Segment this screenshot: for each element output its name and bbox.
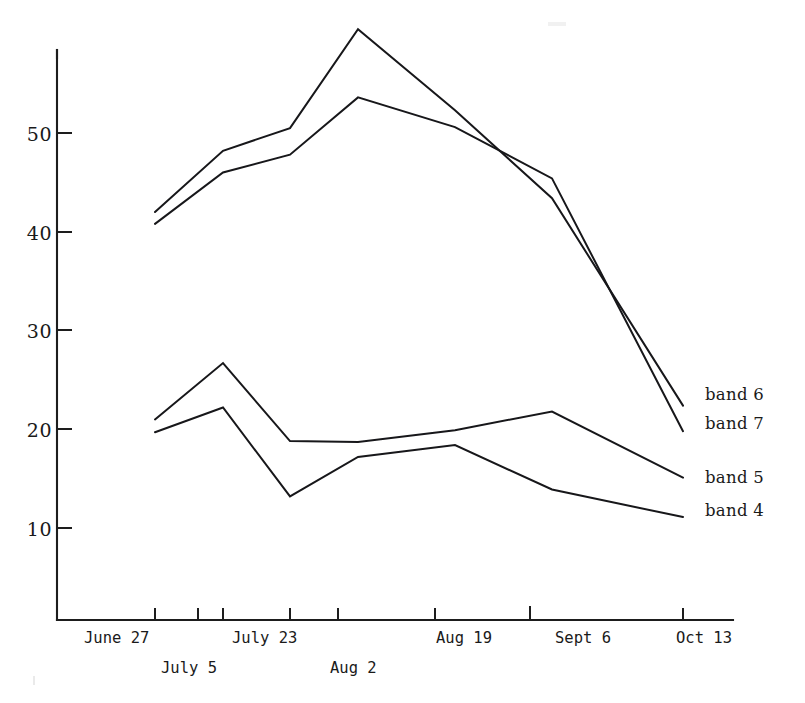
y-tick-marks: [58, 133, 72, 528]
x-tick-label-july-23: July 23: [232, 629, 297, 647]
line-chart-plot: [0, 0, 805, 703]
y-tick-label-20: 20: [16, 419, 52, 441]
series-line-band-4: [155, 408, 683, 518]
scan-speck: [548, 22, 566, 26]
chart-container: 50 40 30 20 10 June 27 July 23 Aug 19 Se…: [0, 0, 805, 703]
legend-item-band-5: band 5: [705, 468, 764, 487]
legend-item-band-4: band 4: [705, 501, 764, 520]
y-tick-label-40: 40: [16, 222, 52, 244]
scan-speck: [33, 676, 35, 685]
x-tick-label-sept-6: Sept 6: [555, 629, 611, 647]
y-tick-label-10: 10: [16, 518, 52, 540]
x-tick-label-july-5: July 5: [161, 659, 217, 677]
x-tick-label-june-27: June 27: [84, 629, 149, 647]
y-tick-label-50: 50: [16, 123, 52, 145]
x-tick-marks: [155, 606, 683, 620]
legend-item-band-6: band 6: [705, 385, 764, 404]
x-tick-label-aug-19: Aug 19: [436, 629, 492, 647]
series-group: [155, 29, 683, 517]
y-tick-label-30: 30: [16, 320, 52, 342]
legend-item-band-7: band 7: [705, 414, 764, 433]
x-tick-label-aug-2: Aug 2: [330, 659, 377, 677]
x-tick-label-oct-13: Oct 13: [676, 629, 732, 647]
series-line-band-5: [155, 363, 683, 478]
series-line-band-6: [155, 29, 683, 405]
